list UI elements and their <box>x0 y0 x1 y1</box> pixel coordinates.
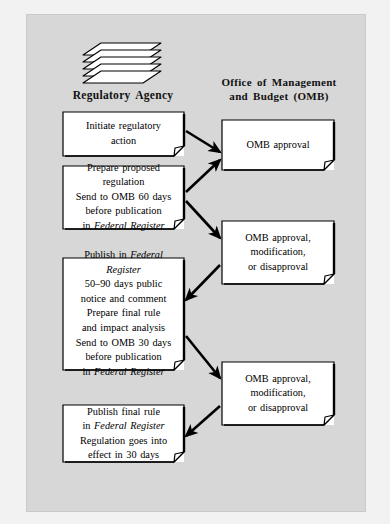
process-box-omb-decision-2[interactable]: OMB approval, modification, or disapprov… <box>222 362 334 425</box>
text-line: Send to OMB 30 days <box>68 336 179 351</box>
text-line: before publication <box>68 205 179 220</box>
text-line: OMB approval, <box>227 231 329 246</box>
box-text: Publish in Federal Register 50–90 days p… <box>63 248 184 379</box>
figure-page: Regulatory Agency Office of Management a… <box>0 0 390 524</box>
text-line: modification, <box>227 386 329 401</box>
text-line: 50–90 days public <box>68 277 179 292</box>
text-line: regulation <box>68 176 179 191</box>
box-text: OMB approval <box>222 138 334 153</box>
arrow-prepare-to-omb-decision1 <box>186 201 220 238</box>
text-line: Send to OMB 60 days <box>68 190 179 205</box>
text-line: Initiate regulatory <box>68 119 179 134</box>
arrow-initiate-to-omb-approval <box>186 131 220 152</box>
arrow-omb-decision2-to-final <box>186 406 220 436</box>
process-box-omb-approval[interactable]: OMB approval <box>222 120 334 170</box>
box-text: Prepare proposed regulation Send to OMB … <box>63 161 184 234</box>
text-line: or disapproval <box>227 260 329 275</box>
text-line-federal-register: in Federal Register <box>68 419 179 434</box>
text-line: Prepare proposed <box>68 161 179 176</box>
text-line: effect in 30 days <box>68 448 179 463</box>
text-line: notice and comment <box>68 292 179 307</box>
text-line: before publication <box>68 351 179 366</box>
process-box-prepare[interactable]: Prepare proposed regulation Send to OMB … <box>63 166 184 229</box>
text-line: and impact analysis <box>68 321 179 336</box>
text-line: Prepare final rule <box>68 307 179 322</box>
text-line: OMB approval <box>227 138 329 153</box>
text-line-register: Register <box>68 263 179 278</box>
arrow-prepare-to-omb-approval <box>186 160 220 192</box>
box-text: Publish final rule in Federal Register R… <box>63 404 184 462</box>
process-box-publish[interactable]: Publish in Federal Register 50–90 days p… <box>63 258 184 370</box>
box-text: OMB approval, modification, or disapprov… <box>222 231 334 275</box>
box-text: Initiate regulatory action <box>63 119 184 148</box>
text-line: modification, <box>227 245 329 260</box>
text-line-federal-register: in Federal Register <box>68 365 179 380</box>
text-line: or disapproval <box>227 401 329 416</box>
process-box-initiate[interactable]: Initiate regulatory action <box>63 112 184 156</box>
text-line: OMB approval, <box>227 372 329 387</box>
diagram-layer: Regulatory Agency Office of Management a… <box>0 0 390 524</box>
process-box-final-rule[interactable]: Publish final rule in Federal Register R… <box>63 405 184 462</box>
text-line-federal-register: in Federal Register <box>68 219 179 234</box>
text-line: action <box>68 134 179 149</box>
process-box-omb-decision-1[interactable]: OMB approval, modification, or disapprov… <box>222 221 334 284</box>
text-line-federal-register: Publish in Federal <box>68 248 179 263</box>
box-text: OMB approval, modification, or disapprov… <box>222 372 334 416</box>
text-line: Regulation goes into <box>68 434 179 449</box>
text-line: Publish final rule <box>68 404 179 419</box>
arrow-omb-decision1-to-publish <box>186 265 220 300</box>
arrow-publish-to-omb-decision2 <box>186 336 220 378</box>
